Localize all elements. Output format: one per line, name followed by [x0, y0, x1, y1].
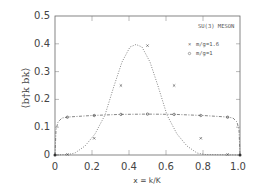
end-dot	[239, 154, 242, 157]
legend-label-2: m/g=1	[196, 50, 213, 57]
series-m-g-1.6-line	[55, 45, 240, 156]
origin-dot	[54, 154, 57, 157]
y-axis-label: ⟨b†k bk⟩	[20, 67, 31, 108]
y-tick-0.1: 0.1	[34, 121, 50, 132]
y-tick-0.4: 0.4	[34, 38, 50, 49]
y-tick-0: 0	[44, 149, 50, 160]
legend-marker-circle	[188, 52, 190, 54]
y-tick-0.5: 0.5	[34, 10, 50, 21]
y-tick-0.3: 0.3	[34, 66, 50, 77]
series-m-g-1.6-markers	[66, 44, 229, 155]
chart-annotation: SU(3) MESON	[198, 23, 234, 29]
x-axis-label: x = k/K	[133, 176, 161, 185]
x-tick-0.2: 0.2	[84, 161, 100, 172]
x-tick-0.6: 0.6	[158, 161, 174, 172]
legend-marker-x: ×	[188, 41, 191, 47]
legend-label-1: m/g=1.6	[196, 41, 219, 48]
x-tick-1.0: 1.0	[230, 161, 246, 172]
x-major-ticks	[92, 16, 203, 155]
y-minor-ticks	[55, 44, 240, 155]
y-tick-0.2: 0.2	[34, 93, 50, 104]
x-tick-0: 0	[52, 161, 58, 172]
x-tick-0.4: 0.4	[121, 161, 137, 172]
chart: 0 0.1 0.2 0.3 0.4 0.5 0 0.2 0.4 0.6 0.8 …	[0, 0, 258, 193]
x-tick-0.8: 0.8	[195, 161, 211, 172]
plot-frame	[55, 16, 240, 155]
series-m-g-1-line	[55, 114, 240, 155]
